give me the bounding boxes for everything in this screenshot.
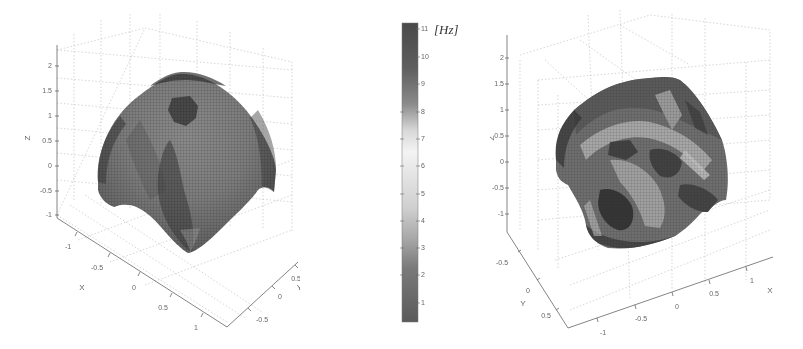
colorbar-unit-label: [Hz] (434, 22, 459, 37)
y-axis-label: Y (297, 283, 300, 292)
y-tick: -0.5 (256, 316, 268, 323)
x-tick: 0.5 (158, 304, 168, 311)
z-axis-label: Z (23, 135, 32, 140)
x-tick: -1 (65, 243, 71, 250)
colorbar-tick: 7 (421, 135, 425, 142)
z-tick: -0.5 (492, 184, 504, 191)
y-tick: 0 (278, 293, 282, 300)
colorbar-canvas: 11 10 9 8 7 6 5 4 3 2 1 [Hz] (398, 18, 488, 328)
z-tick: 2 (500, 54, 504, 61)
x-tick: 0 (675, 303, 679, 310)
x-tick: -0.5 (91, 264, 103, 271)
z-tick: 0.5 (42, 137, 52, 144)
y-axis-label: Y (520, 299, 526, 308)
colorbar-tick: 8 (421, 108, 425, 115)
z-tick: -0.5 (40, 187, 52, 194)
colorbar: 11 10 9 8 7 6 5 4 3 2 1 [Hz] (398, 18, 488, 328)
x-axis-label: X (79, 283, 85, 292)
z-tick: -1 (498, 210, 504, 217)
z-tick: 1 (500, 106, 504, 113)
x-tick: -0.5 (635, 315, 647, 322)
z-tick: 1.5 (494, 80, 504, 87)
left-surface (96, 72, 278, 256)
z-axis-label: Z (490, 135, 496, 140)
y-tick: -0.5 (496, 259, 508, 266)
colorbar-tick: 11 (421, 25, 428, 32)
x-tick: 1 (194, 324, 198, 331)
x-tick: -1 (600, 329, 606, 336)
right-z-axis: 2 1.5 1 0.5 0 -0.5 -1 Z (490, 35, 509, 232)
z-tick: 0 (48, 162, 52, 169)
colorbar-tick: 6 (421, 162, 425, 169)
z-tick: -1 (46, 211, 52, 218)
y-tick: 0.5 (291, 275, 300, 282)
colorbar-tick: 2 (421, 271, 425, 278)
x-tick: 0.5 (709, 290, 719, 297)
z-tick: 1.5 (42, 87, 52, 94)
left-3d-surface-plot: 2 1.5 1 0.5 0 -0.5 -1 Z -1 -0.5 0 0.5 1 … (0, 0, 300, 349)
y-tick: 0 (526, 287, 530, 294)
right-plot-canvas: 2 1.5 1 0.5 0 -0.5 -1 Z -0.5 0 0.5 Y (490, 0, 803, 349)
right-3d-surface-plot: 2 1.5 1 0.5 0 -0.5 -1 Z -0.5 0 0.5 Y (490, 0, 803, 349)
x-axis-label: X (767, 286, 773, 295)
colorbar-tick: 1 (421, 299, 425, 306)
colorbar-gradient (402, 23, 418, 322)
z-tick: 2 (48, 62, 52, 69)
z-tick: 0 (500, 158, 504, 165)
left-y-axis: -0.5 0 0.5 Y (227, 262, 300, 327)
x-tick: 0 (132, 284, 136, 291)
x-tick: 1 (750, 277, 754, 284)
right-x-axis: -1 -0.5 0 0.5 1 X (568, 257, 773, 336)
colorbar-tick: 10 (421, 53, 429, 60)
right-y-axis: -0.5 0 0.5 Y (496, 232, 568, 328)
left-plot-canvas: 2 1.5 1 0.5 0 -0.5 -1 Z -1 -0.5 0 0.5 1 … (0, 0, 300, 349)
z-tick: 1 (48, 112, 52, 119)
left-z-axis: 2 1.5 1 0.5 0 -0.5 -1 Z (23, 45, 59, 218)
colorbar-tick: 4 (421, 217, 425, 224)
right-surface (550, 70, 735, 255)
colorbar-tick: 9 (421, 80, 425, 87)
colorbar-tick: 5 (421, 190, 425, 197)
y-tick: 0.5 (541, 312, 551, 319)
colorbar-tick: 3 (421, 244, 425, 251)
